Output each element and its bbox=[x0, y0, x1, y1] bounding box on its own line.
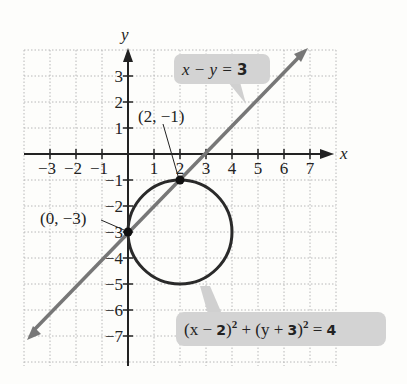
y-tick-label: 1 bbox=[115, 119, 124, 138]
leader-2-neg1 bbox=[163, 124, 178, 176]
line-callout-text: x − y = 3 bbox=[181, 60, 247, 79]
y-tick-label: −6 bbox=[105, 301, 123, 320]
y-axis-label: y bbox=[119, 25, 129, 44]
x-tick-label: −2 bbox=[64, 159, 82, 178]
x-tick-label: 5 bbox=[254, 159, 263, 178]
line-arrow-bottom-icon bbox=[27, 326, 41, 340]
x-tick-label: 3 bbox=[202, 159, 211, 178]
line-curve bbox=[34, 56, 300, 330]
point-label-0-neg3: (0, −3) bbox=[40, 209, 86, 228]
point-label-2-neg1: (2, −1) bbox=[138, 107, 184, 126]
x-axis-arrow-icon bbox=[320, 149, 334, 159]
graph: −3−2−11234567321−1−2−3−4−5−6−7 x y (2, −… bbox=[0, 0, 407, 384]
y-tick-label: −1 bbox=[105, 171, 123, 190]
x-axis-label: x bbox=[339, 144, 348, 163]
x-tick-label: 7 bbox=[306, 159, 315, 178]
line-callout-pointer bbox=[228, 82, 246, 104]
y-tick-label: −2 bbox=[105, 197, 123, 216]
x-tick-label: 6 bbox=[280, 159, 289, 178]
y-axis-arrow-icon bbox=[123, 48, 133, 62]
y-tick-label: −7 bbox=[105, 327, 124, 346]
y-tick-label: 3 bbox=[115, 67, 124, 86]
x-tick-label: −3 bbox=[38, 159, 56, 178]
x-tick-label: 1 bbox=[150, 159, 159, 178]
point-0-neg3 bbox=[124, 228, 133, 237]
x-tick-label: 4 bbox=[228, 159, 237, 178]
circle-callout-text: (x − 2)2 + (y + 3)2 = 4 bbox=[184, 318, 337, 339]
y-tick-label: 2 bbox=[115, 93, 124, 112]
y-tick-label: −5 bbox=[105, 275, 123, 294]
point-2-neg1 bbox=[176, 176, 185, 185]
